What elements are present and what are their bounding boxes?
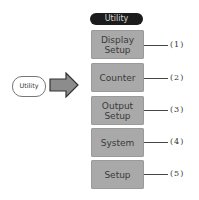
setup-button[interactable]: Setup (91, 160, 144, 189)
utility-key-button[interactable]: Utility (12, 76, 46, 97)
system-button[interactable]: System (91, 128, 144, 157)
counter-button[interactable]: Counter (91, 63, 144, 92)
leader-line-5 (144, 174, 168, 175)
leader-line-2 (144, 78, 168, 79)
ref-label-3: (3) (170, 105, 194, 115)
right-arrow-icon (49, 72, 79, 98)
leader-line-1 (144, 45, 168, 46)
label-line1: Output (102, 101, 133, 111)
leader-line-3 (144, 110, 168, 111)
ref-label-5: (5) (170, 169, 194, 179)
output-setup-button[interactable]: OutputSetup (91, 96, 144, 125)
label-line1: Counter (100, 73, 136, 83)
ref-label-4: (4) (170, 137, 194, 147)
label-line1: System (101, 138, 135, 148)
label-line1: Display (101, 35, 134, 45)
label-line1: Setup (104, 170, 130, 180)
ref-label-1: (1) (170, 40, 194, 50)
leader-line-4 (144, 142, 168, 143)
display-setup-button[interactable]: DisplaySetup (91, 30, 144, 59)
menu-title: Utility (90, 13, 143, 25)
label-line2: Setup (101, 45, 134, 55)
ref-label-2: (2) (170, 73, 194, 83)
label-line2: Setup (102, 111, 133, 121)
